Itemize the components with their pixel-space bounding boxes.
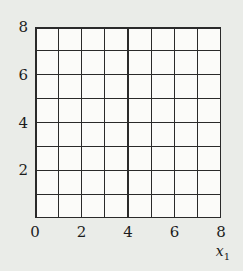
- y-tick-label: 2: [8, 161, 28, 179]
- x-tick-label: 2: [70, 223, 94, 241]
- x-tick-label: 4: [116, 223, 140, 241]
- y-tick-label: 4: [8, 114, 28, 132]
- x-tick-label: 0: [23, 223, 47, 241]
- plot-area: [35, 27, 221, 218]
- grid: [35, 27, 221, 218]
- x-axis-label-base: x: [216, 243, 224, 259]
- figure: 8642 02468 x1: [0, 0, 243, 271]
- x-axis-label: x1: [196, 243, 230, 259]
- x-axis-label-subscript: 1: [224, 251, 230, 262]
- y-tick-label: 6: [8, 66, 28, 84]
- x-tick-label: 8: [209, 223, 233, 241]
- x-tick-label: 6: [163, 223, 187, 241]
- y-tick-label: 8: [8, 18, 28, 36]
